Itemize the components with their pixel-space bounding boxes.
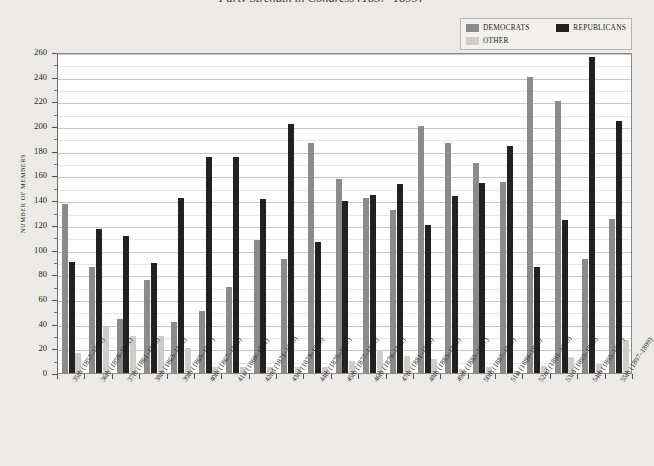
bar-group bbox=[523, 54, 550, 373]
bar-group bbox=[441, 54, 468, 373]
legend-label-republicans: REPUBLICANS bbox=[573, 23, 626, 32]
chart-legend: DEMOCRATS REPUBLICANS OTHER bbox=[460, 18, 632, 50]
y-tick-label-160: 160 bbox=[13, 170, 47, 180]
x-tick-10 bbox=[303, 374, 304, 379]
bar-republicans-20 bbox=[589, 57, 595, 373]
y-tick-200 bbox=[52, 127, 57, 128]
x-tick-20 bbox=[577, 374, 578, 379]
legend-item-democrats: DEMOCRATS bbox=[466, 23, 552, 32]
y-tick-60 bbox=[52, 300, 57, 301]
x-tick-end bbox=[632, 374, 633, 379]
y-tick-140 bbox=[52, 201, 57, 202]
bar-group bbox=[469, 54, 496, 373]
x-tick-13 bbox=[386, 374, 387, 379]
bar-group bbox=[359, 54, 386, 373]
bar-republicans-1 bbox=[69, 262, 75, 373]
y-tick-label-180: 180 bbox=[13, 146, 47, 156]
x-tick-18 bbox=[522, 374, 523, 379]
bar-republicans-4 bbox=[151, 263, 157, 373]
bar-group bbox=[195, 54, 222, 373]
y-tick-label-20: 20 bbox=[13, 343, 47, 353]
y-tick-260 bbox=[52, 53, 57, 54]
bar-republicans-18 bbox=[534, 267, 540, 373]
legend-swatch-other bbox=[466, 37, 479, 45]
legend-label-democrats: DEMOCRATS bbox=[483, 23, 530, 32]
legend-swatch-republicans bbox=[556, 24, 569, 32]
y-tick-70 bbox=[54, 288, 57, 289]
y-tick-220 bbox=[52, 102, 57, 103]
y-tick-label-220: 220 bbox=[13, 96, 47, 106]
bar-group bbox=[304, 54, 331, 373]
y-tick-100 bbox=[52, 251, 57, 252]
legend-item-other: OTHER bbox=[466, 36, 509, 45]
x-tick-7 bbox=[221, 374, 222, 379]
y-tick-240 bbox=[52, 78, 57, 79]
x-tick-6 bbox=[194, 374, 195, 379]
bar-group bbox=[387, 54, 414, 373]
bar-group bbox=[222, 54, 249, 373]
y-tick-label-260: 260 bbox=[13, 47, 47, 57]
x-tick-4 bbox=[139, 374, 140, 379]
y-tick-label-140: 140 bbox=[13, 195, 47, 205]
y-tick-label-0: 0 bbox=[13, 368, 47, 378]
x-tick-14 bbox=[413, 374, 414, 379]
x-tick-11 bbox=[331, 374, 332, 379]
legend-label-other: OTHER bbox=[483, 36, 509, 45]
x-tick-19 bbox=[550, 374, 551, 379]
bar-group bbox=[414, 54, 441, 373]
x-tick-2 bbox=[84, 374, 85, 379]
y-tick-150 bbox=[54, 189, 57, 190]
y-tick-label-40: 40 bbox=[13, 319, 47, 329]
legend-item-republicans: REPUBLICANS bbox=[556, 23, 626, 32]
x-tick-12 bbox=[358, 374, 359, 379]
legend-row-2: OTHER bbox=[466, 35, 626, 46]
bar-group bbox=[113, 54, 140, 373]
legend-row-1: DEMOCRATS REPUBLICANS bbox=[466, 22, 626, 33]
y-tick-180 bbox=[52, 152, 57, 153]
bar-democrats-10 bbox=[308, 143, 314, 373]
y-tick-250 bbox=[54, 65, 57, 66]
y-tick-80 bbox=[52, 275, 57, 276]
y-tick-label-100: 100 bbox=[13, 245, 47, 255]
bar-democrats-16 bbox=[473, 163, 479, 373]
x-tick-15 bbox=[440, 374, 441, 379]
bar-democrats-1 bbox=[62, 204, 68, 373]
y-tick-170 bbox=[54, 164, 57, 165]
y-tick-90 bbox=[54, 263, 57, 264]
bar-democrats-15 bbox=[445, 143, 451, 373]
x-tick-16 bbox=[468, 374, 469, 379]
x-tick-3 bbox=[112, 374, 113, 379]
y-tick-label-200: 200 bbox=[13, 121, 47, 131]
y-tick-30 bbox=[54, 337, 57, 338]
y-tick-110 bbox=[54, 238, 57, 239]
y-tick-230 bbox=[54, 90, 57, 91]
y-tick-160 bbox=[52, 176, 57, 177]
bar-group bbox=[58, 54, 85, 373]
bar-group bbox=[85, 54, 112, 373]
bar-group bbox=[551, 54, 578, 373]
y-tick-label-240: 240 bbox=[13, 72, 47, 82]
bar-group bbox=[496, 54, 523, 373]
plot-area bbox=[57, 53, 632, 374]
bar-group bbox=[606, 54, 633, 373]
x-tick-5 bbox=[167, 374, 168, 379]
y-tick-120 bbox=[52, 226, 57, 227]
bar-group bbox=[140, 54, 167, 373]
bar-group bbox=[250, 54, 277, 373]
bar-group bbox=[578, 54, 605, 373]
legend-swatch-democrats bbox=[466, 24, 479, 32]
x-tick-9 bbox=[276, 374, 277, 379]
y-tick-label-120: 120 bbox=[13, 220, 47, 230]
y-tick-40 bbox=[52, 325, 57, 326]
y-tick-130 bbox=[54, 214, 57, 215]
y-tick-50 bbox=[54, 312, 57, 313]
bar-democrats-19 bbox=[555, 101, 561, 373]
bar-group bbox=[332, 54, 359, 373]
y-tick-20 bbox=[52, 349, 57, 350]
bar-democrats-18 bbox=[527, 77, 533, 373]
chart-title: Party Strength in Congress (1857–1899) bbox=[0, 0, 641, 2]
y-tick-label-80: 80 bbox=[13, 269, 47, 279]
y-tick-190 bbox=[54, 139, 57, 140]
bar-group bbox=[277, 54, 304, 373]
